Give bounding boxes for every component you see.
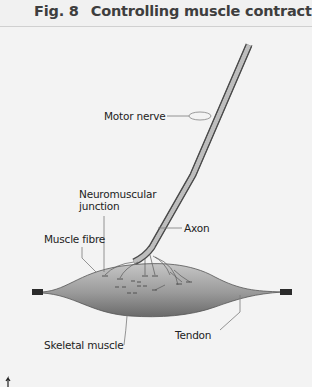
label-motor-nerve: Motor nerve: [104, 110, 166, 122]
right-tendon: [280, 289, 292, 295]
label-neuromuscular-line2: junction: [79, 200, 120, 212]
skeletal-muscle-leader: [124, 316, 127, 345]
corner-arrow-icon: [6, 378, 10, 387]
label-muscle-fibre: Muscle fibre: [44, 233, 105, 245]
left-tendon: [32, 289, 43, 295]
label-axon: Axon: [184, 222, 209, 234]
skeletal-muscle-body: [42, 264, 282, 317]
muscle-fibre-leader: [82, 247, 96, 272]
nerve-sheath-ellipse: [189, 112, 211, 120]
label-tendon: Tendon: [175, 329, 211, 341]
label-skeletal-muscle: Skeletal muscle: [44, 339, 124, 351]
label-neuromuscular-line1: Neuromuscular: [79, 188, 156, 200]
